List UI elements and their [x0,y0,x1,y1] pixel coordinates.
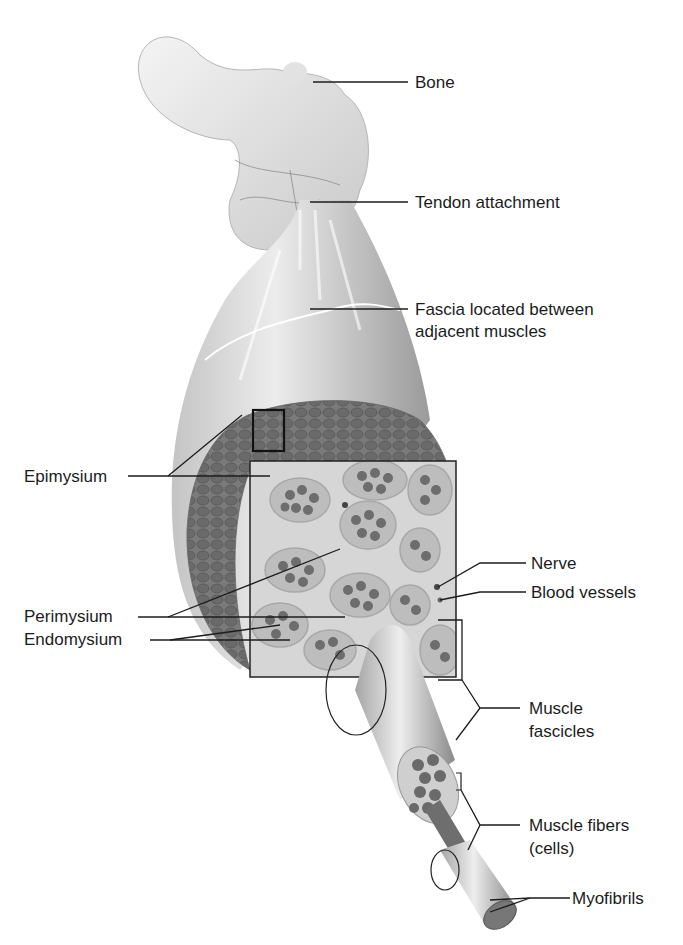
label-blood-vessels: Blood vessels [531,583,636,603]
label-endomysium: Endomysium [24,630,122,650]
label-epimysium: Epimysium [24,467,107,487]
label-fascia-line2: adjacent muscles [415,322,546,342]
label-bone: Bone [415,73,455,93]
label-muscle-fibers-line1: Muscle fibers [529,816,629,836]
label-muscle-fascicles-line2: fascicles [529,722,594,742]
label-nerve: Nerve [531,554,576,574]
label-muscle-fibers-line2: (cells) [529,839,574,859]
label-fascia-line1: Fascia located between [415,300,594,320]
label-perimysium: Perimysium [24,607,113,627]
label-myofibrils: Myofibrils [572,889,644,909]
label-tendon-attachment: Tendon attachment [415,193,560,213]
label-muscle-fascicles-line1: Muscle [529,699,583,719]
